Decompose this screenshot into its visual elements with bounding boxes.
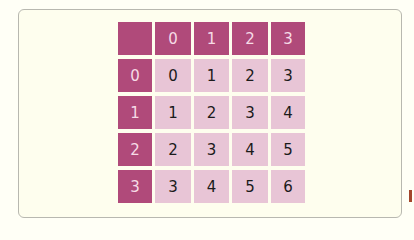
table-cell: 3 (155, 170, 191, 203)
table-cell: 0 (155, 59, 191, 92)
table-cell: 1 (194, 59, 229, 92)
table-cell: 2 (232, 59, 268, 92)
table-cell: 2 (155, 133, 191, 166)
row-header: 1 (118, 96, 152, 129)
table-cell: 6 (271, 170, 305, 203)
table-cell: 1 (155, 96, 191, 129)
corner-cell (118, 22, 152, 55)
column-header: 1 (194, 22, 229, 55)
table-cell: 3 (194, 133, 229, 166)
row-header: 2 (118, 133, 152, 166)
table-cell: 4 (232, 133, 268, 166)
column-header: 3 (271, 22, 305, 55)
addition-table: 0 1 2 3 0 0 1 2 3 1 1 2 3 4 2 2 3 4 5 3 … (118, 22, 305, 203)
table-cell: 3 (232, 96, 268, 129)
table-cell: 5 (232, 170, 268, 203)
table-cell: 4 (271, 96, 305, 129)
table-cell: 4 (194, 170, 229, 203)
page-edge-mark (409, 190, 412, 202)
table-cell: 5 (271, 133, 305, 166)
column-header: 2 (232, 22, 268, 55)
table-cell: 2 (194, 96, 229, 129)
row-header: 3 (118, 170, 152, 203)
table-cell: 3 (271, 59, 305, 92)
column-header: 0 (155, 22, 191, 55)
row-header: 0 (118, 59, 152, 92)
